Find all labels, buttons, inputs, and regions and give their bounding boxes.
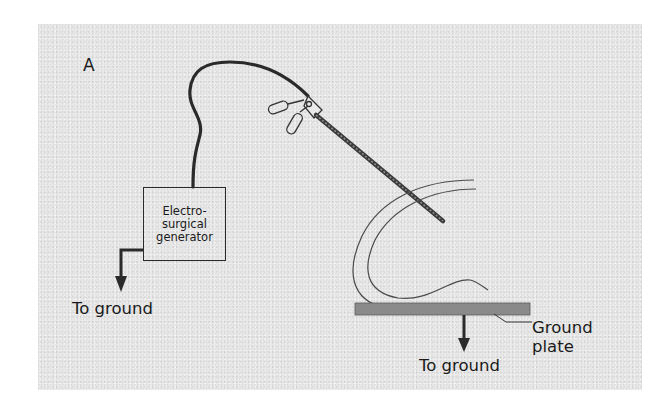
ground-plate — [355, 303, 530, 315]
generator-label-line: surgical — [162, 218, 207, 231]
to-ground-label-right: To ground — [419, 356, 500, 375]
ground-plate-label-line: Ground — [532, 318, 593, 337]
ground-plate-label: Ground plate — [532, 318, 593, 356]
electrosurgical-generator-box: Electro- surgical generator — [143, 187, 226, 261]
ground-plate-label-line: plate — [532, 337, 593, 356]
to-ground-label-left: To ground — [72, 299, 153, 318]
arrow-down-icon — [458, 315, 470, 352]
instrument-handle-icon — [267, 96, 322, 136]
generator-label-line: Electro- — [162, 205, 206, 218]
generator-label-line: generator — [156, 231, 213, 244]
cable — [190, 62, 308, 187]
instrument-shaft — [316, 115, 443, 221]
panel-label: A — [83, 55, 95, 75]
patient-body-outline — [353, 180, 493, 312]
arrow-down-icon — [115, 250, 143, 292]
